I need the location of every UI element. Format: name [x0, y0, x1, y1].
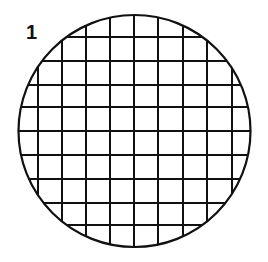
gridded-circle-diagram — [0, 0, 268, 262]
grid-lines — [0, 0, 268, 262]
